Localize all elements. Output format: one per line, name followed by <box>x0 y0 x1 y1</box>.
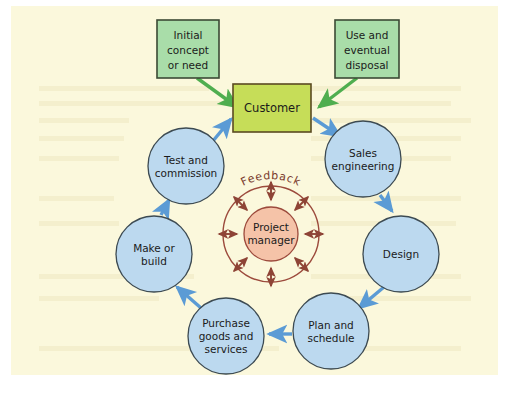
use-disposal-line-1: Use and <box>346 29 389 41</box>
node-sales-engineering-line-2: engineering <box>332 160 395 172</box>
node-purchase-line-1: Purchase <box>202 317 250 329</box>
node-test-and-commission-line-2: commission <box>155 167 218 179</box>
figure-panel: Project manager Feedback Sales engineeri… <box>11 6 498 375</box>
spoke-ne <box>295 197 308 210</box>
node-test-and-commission[interactable]: Test and commission <box>148 128 224 204</box>
spoke-nw <box>234 197 247 210</box>
project-manager-label-line-1: Project <box>253 221 289 233</box>
arrow-test-to-customer <box>213 119 231 141</box>
node-plan-and-schedule[interactable]: Plan and schedule <box>293 293 369 369</box>
node-plan-and-schedule-line-2: schedule <box>307 332 354 344</box>
figure-page: Project manager Feedback Sales engineeri… <box>0 0 521 400</box>
use-disposal-line-2: eventual <box>344 44 390 56</box>
arrow-make-or-build-to-test <box>161 200 169 215</box>
node-plan-and-schedule-line-1: Plan and <box>308 319 353 331</box>
node-make-or-build-line-2: build <box>141 255 167 267</box>
node-test-and-commission-line-1: Test and <box>163 154 208 166</box>
input-boxes: Initial concept or need Use and eventual… <box>157 20 399 78</box>
project-management-cycle-diagram: Project manager Feedback Sales engineeri… <box>11 6 498 375</box>
node-customer[interactable]: Customer <box>233 84 311 132</box>
spoke-sw <box>234 258 247 271</box>
node-purchase-goods-and-services[interactable]: Purchase goods and services <box>188 298 264 374</box>
initial-concept-line-1: Initial <box>173 29 202 41</box>
node-sales-engineering-line-1: Sales <box>349 147 377 159</box>
node-design-line-1: Design <box>383 248 419 260</box>
spoke-se <box>295 258 308 271</box>
initial-concept-line-3: or need <box>168 59 208 71</box>
use-disposal-line-3: disposal <box>346 59 389 71</box>
node-make-or-build[interactable]: Make or build <box>116 216 192 292</box>
node-use-and-eventual-disposal[interactable]: Use and eventual disposal <box>335 20 399 78</box>
node-sales-engineering-circle[interactable] <box>325 121 401 197</box>
arrow-purchase-to-make-or-build <box>177 287 201 308</box>
node-plan-and-schedule-circle[interactable] <box>293 293 369 369</box>
node-purchase-line-3: services <box>204 343 247 355</box>
initial-concept-line-2: concept <box>167 44 209 56</box>
node-initial-concept[interactable]: Initial concept or need <box>157 20 219 78</box>
node-purchase-line-2: goods and <box>199 330 254 342</box>
node-test-and-commission-circle[interactable] <box>148 128 224 204</box>
node-make-or-build-circle[interactable] <box>116 216 192 292</box>
customer-label: Customer <box>244 101 300 115</box>
node-sales-engineering[interactable]: Sales engineering <box>325 121 401 197</box>
node-design[interactable]: Design <box>363 216 439 292</box>
project-manager-label-line-2: manager <box>247 234 295 246</box>
node-make-or-build-line-1: Make or <box>133 242 175 254</box>
feedback-ring-group: Project manager Feedback <box>219 169 323 286</box>
